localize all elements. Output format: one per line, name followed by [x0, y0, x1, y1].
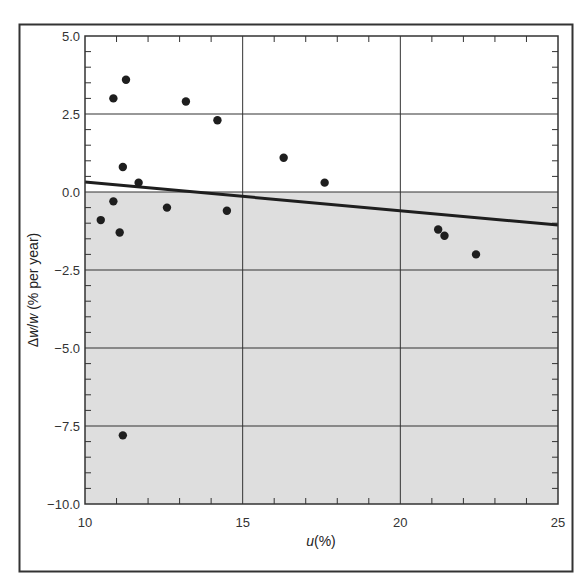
- y-tick-label: −5.0: [54, 341, 80, 356]
- y-tick-label: 5.0: [62, 29, 80, 44]
- plot-area: [85, 36, 558, 504]
- y-axis-label-delta: Δ: [25, 338, 41, 347]
- data-point: [122, 75, 130, 83]
- x-axis-label-unit: (%): [314, 533, 336, 549]
- x-tick-label: 20: [393, 515, 407, 530]
- data-point: [223, 207, 231, 215]
- data-point: [134, 178, 142, 186]
- chart: 10152025 5.02.50.0−2.5−5.0−7.5−10.0 u(%)…: [0, 0, 587, 588]
- data-point: [119, 431, 127, 439]
- y-tick-label: 2.5: [62, 107, 80, 122]
- data-point: [440, 231, 448, 239]
- y-tick-label: −7.5: [54, 419, 80, 434]
- data-point: [119, 163, 127, 171]
- data-point: [213, 116, 221, 124]
- x-axis-label-variable: u: [306, 533, 314, 549]
- data-point: [109, 94, 117, 102]
- data-point: [434, 225, 442, 233]
- x-tick-label: 10: [78, 515, 92, 530]
- data-point: [320, 178, 328, 186]
- data-point: [115, 228, 123, 236]
- y-axis-label: Δw/w (% per year): [25, 233, 41, 347]
- y-tick-label: 0.0: [62, 185, 80, 200]
- data-point: [109, 197, 117, 205]
- data-point: [163, 203, 171, 211]
- y-tick-label: −2.5: [54, 263, 80, 278]
- y-tick-label: −10.0: [47, 497, 80, 512]
- data-point: [97, 216, 105, 224]
- data-point: [279, 153, 287, 161]
- y-axis-label-unit: (% per year): [25, 233, 41, 314]
- data-point: [182, 97, 190, 105]
- x-tick-label: 15: [235, 515, 249, 530]
- data-point: [472, 250, 480, 258]
- x-tick-label: 25: [551, 515, 565, 530]
- x-axis-label: u(%): [306, 533, 336, 549]
